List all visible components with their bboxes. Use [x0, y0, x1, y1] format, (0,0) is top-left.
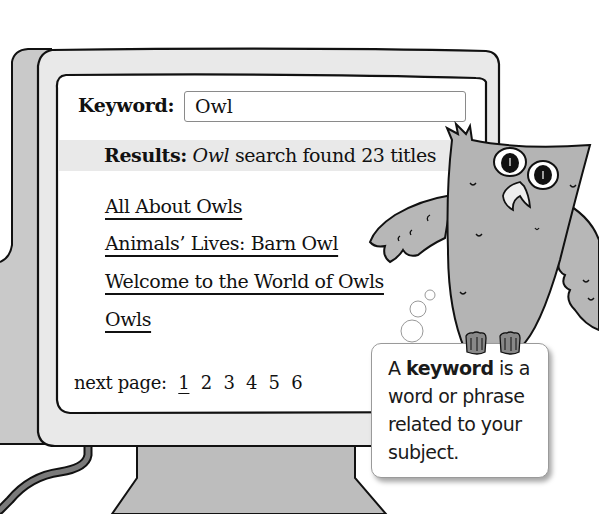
callout-prefix: A — [388, 357, 401, 379]
keyword-definition-callout: A keyword is a word or phrase related to… — [371, 343, 549, 478]
callout-term: keyword — [406, 357, 493, 379]
